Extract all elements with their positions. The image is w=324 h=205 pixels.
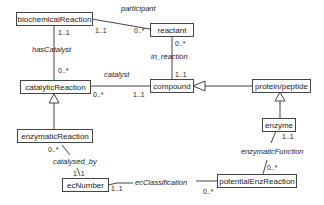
class-label: reactant [158, 26, 188, 35]
class-label: enzymaticReaction [21, 132, 89, 141]
generalization-protein-compound [193, 81, 252, 91]
class-label: catalyticReaction [25, 83, 85, 92]
class-protein-peptide[interactable]: protein/peptide [253, 80, 311, 93]
mult-catalysed-by-source: 0..* [48, 146, 59, 153]
mult-in-reaction-source: 0..* [175, 40, 186, 47]
class-enzymaticReaction[interactable]: enzymaticReaction [18, 130, 93, 143]
mult-ec-classification-source: 1..1 [111, 185, 123, 192]
role-hasCatalyst: hasCatalyst [32, 45, 72, 54]
mult-catalysed-by-target: 1..1 [73, 170, 85, 177]
mult-catalyst-source: 0..* [93, 91, 104, 98]
class-compound[interactable]: compound [151, 80, 194, 93]
uml-class-diagram: biochemicalReaction reactant catalyticRe… [0, 0, 324, 205]
class-label: ecNumber [67, 181, 104, 190]
class-enzyme[interactable]: enzyme [263, 119, 296, 132]
generalization-enzymatic-catalytic [49, 94, 59, 129]
role-catalyst: catalyst [104, 70, 130, 79]
class-label: enzyme [265, 121, 294, 130]
class-potentialEnzReaction[interactable]: potentialEnzReaction [218, 175, 297, 188]
mult-hasCatalyst-source: 1..1 [58, 29, 70, 36]
mult-in-reaction-target: 1..1 [175, 71, 187, 78]
class-label: biochemicalReaction [18, 15, 92, 24]
class-reactant[interactable]: reactant [151, 24, 194, 37]
mult-hasCatalyst-target: 0..* [58, 67, 69, 74]
class-biochemicalReaction[interactable]: biochemicalReaction [17, 13, 93, 26]
mult-participant-source: 1..1 [95, 27, 107, 34]
mult-enzymatic-function-source: 1..1 [282, 133, 294, 140]
mult-ec-classification-target: 0..* [203, 188, 214, 195]
class-catalyticReaction[interactable]: catalyticReaction [21, 81, 91, 94]
class-ecNumber[interactable]: ecNumber [63, 179, 109, 192]
role-catalysed-by: catalysed_by [53, 157, 98, 166]
role-ec-classification: ecClassification [135, 178, 187, 187]
role-in-reaction: in_reaction [151, 52, 188, 61]
mult-participant-target: 0..* [134, 27, 145, 34]
class-label: protein/peptide [255, 82, 308, 91]
class-label: compound [153, 82, 190, 91]
role-enzymatic-function: enzymaticFunction [241, 147, 304, 156]
generalization-enzyme-protein [275, 92, 285, 118]
class-label: potentialEnzReaction [219, 177, 295, 186]
role-participant: participant [120, 4, 157, 13]
mult-enzymatic-function-target: 0..* [267, 164, 278, 171]
mult-catalyst-target: 1..1 [133, 91, 145, 98]
